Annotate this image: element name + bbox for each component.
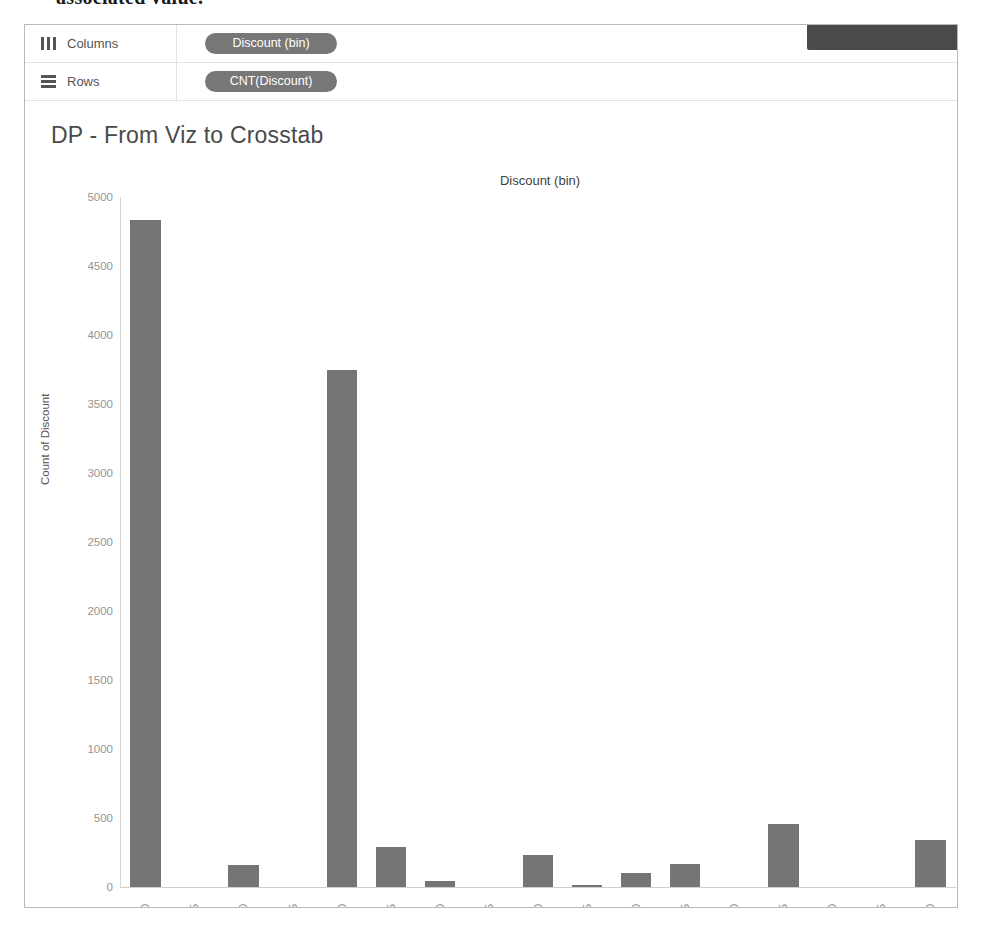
x-axis-tick-slot: 0.25: [366, 891, 415, 908]
bar-slot: [219, 197, 268, 887]
bar[interactable]: [327, 370, 357, 888]
y-axis-tick: 2000: [87, 605, 113, 617]
x-axis-tick-slot: 0.30: [415, 891, 464, 908]
x-axis-tick: 0.35: [483, 904, 495, 908]
x-axis-tick-slot: 0.75: [857, 891, 906, 908]
x-axis-tick-slot: 0.55: [661, 891, 710, 908]
x-axis-tick: 0.60: [728, 904, 740, 908]
x-axis-tick: 0.10: [238, 904, 250, 908]
y-axis-tick: 2500: [87, 536, 113, 548]
x-axis-tick-slot: 0.65: [759, 891, 808, 908]
bar[interactable]: [228, 865, 258, 887]
x-axis-tick-slot: 0.10: [219, 891, 268, 908]
bar-slot: [612, 197, 661, 887]
page-text-fragment: associated value.: [56, 0, 203, 9]
rows-shelf[interactable]: Rows CNT(Discount): [25, 63, 958, 101]
columns-shelf-label: Columns: [67, 36, 118, 51]
y-axis-tick: 5000: [87, 191, 113, 203]
bar[interactable]: [425, 881, 455, 887]
x-axis-tick: 0.80: [925, 904, 937, 908]
y-axis-tick: 4500: [87, 260, 113, 272]
tableau-worksheet-screenshot: Columns Discount (bin) Rows CNT(Discount…: [24, 24, 958, 908]
bar-slot: [268, 197, 317, 887]
x-axis-tick: 0.15: [287, 904, 299, 908]
rows-icon: [41, 75, 57, 88]
columns-shelf-label-box: Columns: [25, 25, 177, 62]
bar-slot: [317, 197, 366, 887]
x-axis-line: [120, 887, 956, 888]
x-axis-tick: 0.30: [434, 904, 446, 908]
x-axis-tick: 0.20: [336, 904, 348, 908]
bar[interactable]: [670, 864, 700, 887]
x-axis-tick: 0.05: [189, 904, 201, 908]
pill-cnt-discount[interactable]: CNT(Discount): [205, 71, 337, 92]
x-axis-tick: 0.25: [385, 904, 397, 908]
bar-slot: [759, 197, 808, 887]
x-axis-tick: 0.40: [532, 904, 544, 908]
bar-slot: [121, 197, 170, 887]
x-axis-tick-slot: 0.80: [906, 891, 955, 908]
x-axis-tick-slot: 0.35: [464, 891, 513, 908]
bar[interactable]: [523, 855, 553, 887]
rows-shelf-label-box: Rows: [25, 63, 177, 100]
plot-region: 5000450040003500300025002000150010005000: [121, 197, 955, 887]
bar-slot: [710, 197, 759, 887]
y-axis-tick: 3000: [87, 467, 113, 479]
x-axis-tick-slot: 0.00: [121, 891, 170, 908]
x-axis-tick-slot: 0.45: [563, 891, 612, 908]
columns-icon: [41, 37, 57, 50]
bar-slot: [906, 197, 955, 887]
bar-slot: [661, 197, 710, 887]
bar-slot: [170, 197, 219, 887]
x-axis-tick-slot: 0.05: [170, 891, 219, 908]
bar-series: [121, 197, 955, 887]
column-field-header: Discount (bin): [121, 173, 958, 188]
x-axis-tick: 0.75: [875, 904, 887, 908]
x-axis-tick: 0.55: [679, 904, 691, 908]
x-axis-tick: 0.70: [826, 904, 838, 908]
pill-discount-bin[interactable]: Discount (bin): [205, 33, 337, 54]
y-axis-tick: 3500: [87, 398, 113, 410]
x-axis-tick: 0.65: [777, 904, 789, 908]
columns-shelf[interactable]: Columns Discount (bin): [25, 25, 958, 63]
y-axis-tick: 500: [94, 812, 113, 824]
x-axis-tick-slot: 0.15: [268, 891, 317, 908]
x-axis-tick-slot: 0.70: [808, 891, 857, 908]
y-axis-tick: 0: [107, 881, 113, 893]
bar[interactable]: [376, 847, 406, 887]
bar[interactable]: [915, 840, 945, 887]
x-axis-tick-slot: 0.50: [612, 891, 661, 908]
bar-slot: [857, 197, 906, 887]
x-axis-tick: 0.00: [140, 904, 152, 908]
y-axis-tick: 4000: [87, 329, 113, 341]
x-axis-tick: 0.45: [581, 904, 593, 908]
x-axis-tick-slot: 0.20: [317, 891, 366, 908]
y-axis-title: Count of Discount: [39, 394, 51, 485]
bar[interactable]: [130, 220, 160, 887]
chart-area: Discount (bin) Count of Discount 5000450…: [25, 109, 958, 908]
x-axis-tick-slot: 0.40: [514, 891, 563, 908]
bar-slot: [514, 197, 563, 887]
bar[interactable]: [621, 873, 651, 887]
bar-slot: [464, 197, 513, 887]
x-axis-tick: 0.50: [630, 904, 642, 908]
bar-slot: [808, 197, 857, 887]
bar-slot: [563, 197, 612, 887]
rows-shelf-label: Rows: [67, 74, 100, 89]
bar-slot: [366, 197, 415, 887]
x-axis-ticks: 0.000.050.100.150.200.250.300.350.400.45…: [121, 891, 955, 908]
bar[interactable]: [572, 885, 602, 887]
x-axis-tick-slot: 0.60: [710, 891, 759, 908]
y-axis-tick: 1500: [87, 674, 113, 686]
y-axis-tick: 1000: [87, 743, 113, 755]
bar-slot: [415, 197, 464, 887]
bar[interactable]: [768, 824, 798, 887]
